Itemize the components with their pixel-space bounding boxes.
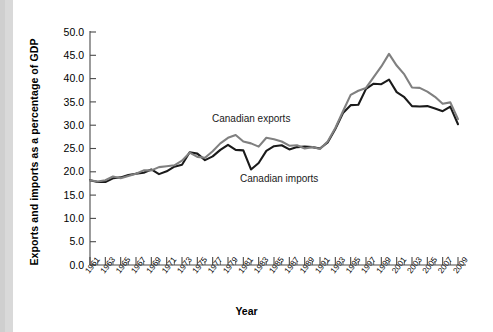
series-line-canadian-imports (90, 80, 458, 183)
y-tick-label: 40.0 (64, 72, 85, 84)
y-tick-label: 15.0 (64, 189, 85, 201)
plot-area: 0.05.010.015.020.025.030.035.040.045.050… (0, 0, 493, 332)
chart-figure: Exports and imports as a percentage of G… (0, 0, 493, 332)
y-tick-label: 35.0 (64, 96, 85, 108)
y-tick-label: 10.0 (64, 212, 85, 224)
y-tick-label: 20.0 (64, 165, 85, 177)
canadian-imports-label: Canadian imports (240, 173, 318, 184)
y-tick-label: 45.0 (64, 49, 85, 61)
y-tick-label: 0.0 (69, 259, 84, 271)
y-tick-label: 5.0 (69, 235, 84, 247)
y-tick-label: 25.0 (64, 142, 85, 154)
y-axis-ticks: 0.05.010.015.020.025.030.035.040.045.050… (64, 26, 96, 271)
y-tick-label: 30.0 (64, 119, 85, 131)
y-tick-label: 50.0 (64, 26, 85, 38)
canadian-exports-label: Canadian exports (212, 113, 290, 124)
